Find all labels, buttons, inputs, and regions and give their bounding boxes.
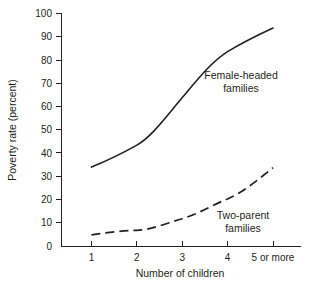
chart-container: 100 90 80 70 60 50 40 30 20 10 0 1 2 3 4… (0, 0, 315, 287)
y-tick-label-20: 20 (41, 194, 53, 205)
series-annotation-two-parent-families: Two-parent families (217, 209, 270, 234)
y-tick-label-50: 50 (41, 124, 53, 135)
y-axis-title: Poverty rate (percent) (6, 79, 18, 181)
x-tick-label-1: 1 (89, 252, 95, 263)
x-tick-label-2: 2 (134, 252, 140, 263)
series-annotation-female-headed-families: Female-headed families (204, 69, 278, 94)
y-tick-label-70: 70 (41, 78, 53, 89)
x-tick-label-3: 3 (180, 252, 186, 263)
x-tick-labels: 1 2 3 4 5 or more (89, 252, 295, 263)
y-tick-label-10: 10 (41, 217, 53, 228)
x-axis-title: Number of children (136, 267, 225, 279)
x-tick-label-5: 5 or more (252, 252, 295, 263)
y-tick-label-80: 80 (41, 55, 53, 66)
annotation-two-parent-line2: families (225, 222, 261, 234)
y-tick-label-90: 90 (41, 31, 53, 42)
y-tick-marks (56, 14, 62, 223)
x-tick-marks (92, 241, 274, 247)
annotation-two-parent-line1: Two-parent (217, 209, 270, 221)
y-tick-label-30: 30 (41, 171, 53, 182)
x-tick-label-4: 4 (225, 252, 231, 263)
series-line-female-headed-families (92, 28, 274, 167)
annotation-female-headed-line1: Female-headed (204, 69, 278, 81)
y-tick-label-0: 0 (46, 241, 52, 252)
poverty-rate-line-chart: 100 90 80 70 60 50 40 30 20 10 0 1 2 3 4… (0, 0, 315, 287)
y-tick-label-40: 40 (41, 148, 53, 159)
y-tick-label-60: 60 (41, 101, 53, 112)
annotation-female-headed-line2: families (223, 82, 259, 94)
y-tick-label-100: 100 (35, 8, 52, 19)
y-tick-labels: 100 90 80 70 60 50 40 30 20 10 0 (35, 8, 52, 252)
